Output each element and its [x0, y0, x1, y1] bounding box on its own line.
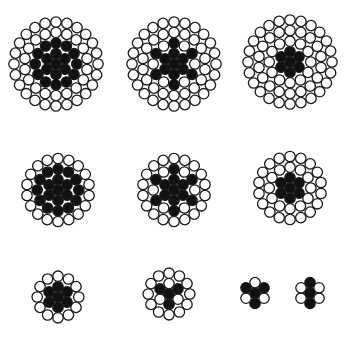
cross-section-i [241, 277, 269, 308]
aluminum-wire [185, 289, 195, 299]
aluminum-wire [325, 68, 335, 78]
aluminum-wire [312, 167, 322, 177]
aluminum-wire [40, 88, 50, 98]
aluminum-wire [254, 177, 264, 187]
aluminum-wire [26, 201, 36, 211]
aluminum-wire [306, 183, 316, 193]
aluminum-wire [243, 57, 253, 67]
aluminum-wire [274, 165, 284, 175]
aluminum-wire [305, 207, 315, 217]
aluminum-wire [315, 87, 325, 97]
aluminum-wire [84, 179, 94, 189]
aluminum-wire [285, 88, 295, 98]
aluminum-wire [180, 29, 190, 39]
aluminum-wire [169, 216, 179, 226]
aluminum-wire [139, 29, 149, 39]
aluminum-wire [169, 27, 179, 37]
aluminum-wire [274, 153, 284, 163]
cross-section-e [138, 153, 210, 226]
aluminum-wire [209, 48, 219, 58]
aluminum-wire [87, 38, 97, 48]
aluminum-wire [142, 169, 152, 179]
aluminum-wire [190, 22, 200, 32]
steel-wire [74, 185, 84, 195]
aluminum-wire [205, 38, 215, 48]
steel-wire [61, 77, 71, 87]
aluminum-wire [295, 201, 305, 211]
aluminum-wire [306, 57, 316, 67]
aluminum-wire [274, 212, 284, 222]
aluminum-wire [148, 185, 158, 195]
aluminum-wire [169, 17, 179, 27]
aluminum-wire [158, 41, 168, 51]
aluminum-wire [81, 89, 91, 99]
cross-section-d [22, 153, 94, 226]
cross-section-c [243, 15, 337, 109]
aluminum-wire [241, 293, 251, 303]
steel-wire [169, 164, 179, 174]
aluminum-wire [62, 29, 72, 39]
cross-section-b [127, 17, 221, 111]
aluminum-wire [199, 29, 209, 39]
aluminum-wire [254, 62, 264, 72]
aluminum-wire [82, 53, 92, 63]
aluminum-wire [139, 89, 149, 99]
aluminum-wire [169, 153, 179, 163]
aluminum-wire [254, 188, 264, 198]
aluminum-wire [84, 190, 94, 200]
aluminum-wire [179, 77, 189, 87]
aluminum-wire [62, 88, 72, 98]
aluminum-wire [71, 281, 81, 291]
aluminum-wire [285, 214, 295, 224]
steel-wire [187, 174, 197, 184]
aluminum-wire [321, 78, 331, 88]
aluminum-wire [138, 190, 148, 200]
aluminum-wire [30, 95, 40, 105]
aluminum-wire [20, 64, 30, 74]
aluminum-wire [303, 172, 313, 182]
steel-wire [169, 206, 179, 216]
aluminum-wire [148, 95, 158, 105]
aluminum-wire [265, 159, 275, 169]
aluminum-wire [306, 93, 316, 103]
aluminum-wire [244, 46, 254, 56]
aluminum-wire [296, 283, 306, 293]
aluminum-wire [274, 16, 284, 26]
aluminum-wire [26, 169, 36, 179]
aluminum-wire [62, 99, 72, 109]
steel-wire [71, 174, 81, 184]
aluminum-wire [51, 90, 61, 100]
aluminum-wire [205, 80, 215, 90]
diagram-canvas [0, 0, 352, 339]
aluminum-wire [80, 169, 90, 179]
steel-wire [42, 167, 52, 177]
aluminum-wire [285, 36, 295, 46]
aluminum-wire [91, 70, 101, 80]
steel-wire [151, 69, 161, 79]
aluminum-wire [40, 18, 50, 28]
aluminum-wire [53, 216, 63, 226]
aluminum-wire [200, 190, 210, 200]
aluminum-wire [71, 35, 81, 45]
aluminum-wire [132, 38, 142, 48]
aluminum-wire [180, 88, 190, 98]
cross-section-g [32, 271, 84, 323]
aluminum-wire [316, 188, 326, 198]
cross-section-a [9, 17, 103, 111]
aluminum-wire [142, 201, 152, 211]
aluminum-wire [158, 214, 168, 224]
aluminum-wire [254, 51, 264, 61]
steel-wire [69, 48, 79, 58]
aluminum-wire [274, 97, 284, 107]
aluminum-wire [51, 17, 61, 27]
aluminum-wire [64, 155, 74, 165]
aluminum-wire [274, 27, 284, 37]
aluminum-wire [158, 99, 168, 109]
aluminum-wire [255, 87, 265, 97]
aluminum-wire [158, 88, 168, 98]
aluminum-wire [274, 86, 284, 96]
aluminum-wire [20, 53, 30, 63]
aluminum-wire [182, 278, 192, 288]
aluminum-wire [285, 15, 295, 25]
aluminum-wire [248, 78, 258, 88]
